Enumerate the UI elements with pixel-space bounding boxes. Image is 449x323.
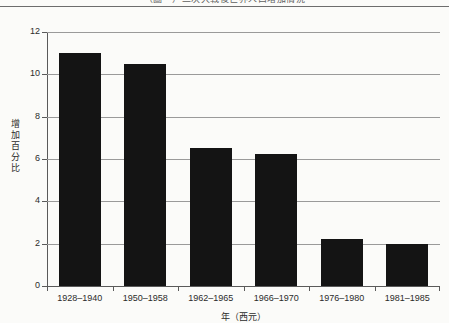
y-axis-tick-mark	[42, 32, 47, 33]
x-axis-tick-label: 1981–1985	[385, 293, 430, 303]
x-axis-tick-label: 1928–1940	[57, 293, 102, 303]
bar	[386, 244, 428, 286]
y-axis-tick-labels: 024681012	[0, 32, 40, 287]
y-axis-tick-label: 0	[14, 280, 40, 290]
y-axis-tick-mark	[42, 159, 47, 160]
x-axis-tick-mark	[47, 286, 48, 291]
y-axis-tick-label: 6	[14, 153, 40, 163]
x-axis-tick-mark	[439, 286, 440, 291]
x-axis-tick-label: 1950–1958	[123, 293, 168, 303]
bar	[321, 239, 363, 286]
chart-page: （圖一）二次大戰後世界人口增加情況 增加百分比 024681012 1928–1…	[0, 0, 449, 323]
x-axis-tick-labels: 1928–19401950–19581962–19651966–19701976…	[47, 293, 440, 307]
y-axis-tick-mark	[42, 201, 47, 202]
x-axis-tick-mark	[178, 286, 179, 291]
gridline	[47, 32, 440, 33]
plot-area	[47, 32, 440, 286]
x-axis-tick-label: 1976–1980	[319, 293, 364, 303]
gridline	[47, 201, 440, 202]
bar	[59, 53, 101, 286]
y-axis-tick-label: 4	[14, 195, 40, 205]
x-axis-tick-mark	[113, 286, 114, 291]
x-axis-tick-mark	[244, 286, 245, 291]
y-axis-tick-mark	[42, 117, 47, 118]
x-axis-tick-label: 1962–1965	[188, 293, 233, 303]
bar	[124, 64, 166, 286]
gridline	[47, 159, 440, 160]
x-axis-title: 年（西元）	[47, 310, 440, 323]
y-axis-tick-mark	[42, 244, 47, 245]
y-axis-tick-label: 10	[14, 68, 40, 78]
bar	[255, 154, 297, 286]
x-axis-tick-mark	[309, 286, 310, 291]
bar-chart: 增加百分比 024681012 1928–19401950–19581962–1…	[0, 7, 449, 323]
y-axis-tick-mark	[42, 286, 47, 287]
gridline	[47, 244, 440, 245]
y-axis-tick-label: 12	[14, 26, 40, 36]
y-axis-tick-mark	[42, 74, 47, 75]
chart-title-text: （圖一）二次大戰後世界人口增加情況	[0, 0, 449, 5]
y-axis-tick-label: 8	[14, 111, 40, 121]
x-axis-tick-mark	[375, 286, 376, 291]
x-axis-tick-label: 1966–1970	[254, 293, 299, 303]
gridline	[47, 74, 440, 75]
y-axis-tick-label: 2	[14, 238, 40, 248]
gridline	[47, 117, 440, 118]
bar	[190, 148, 232, 286]
